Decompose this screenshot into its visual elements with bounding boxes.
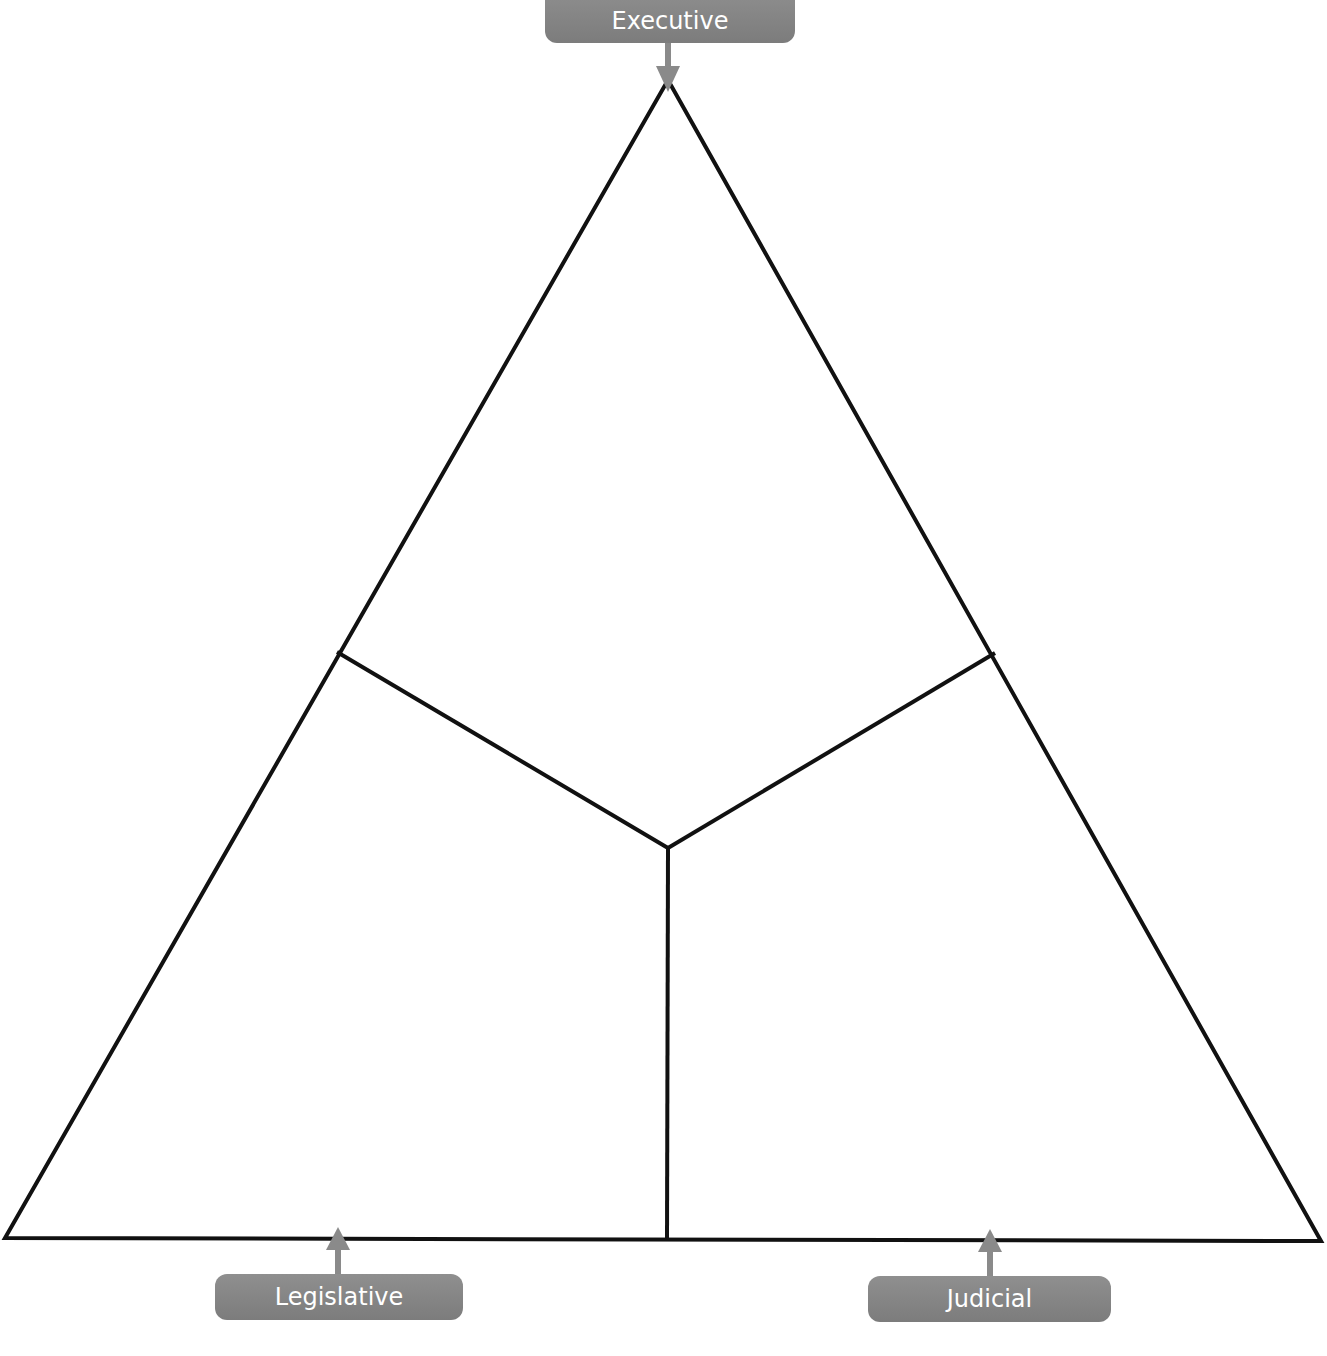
- executive-label: Executive: [545, 0, 795, 43]
- divider-right: [668, 653, 995, 848]
- legislative-label: Legislative: [215, 1274, 463, 1320]
- legislative-label-text: Legislative: [275, 1283, 404, 1311]
- executive-arrow-icon: [656, 42, 680, 92]
- judicial-label: Judicial: [868, 1276, 1111, 1322]
- divider-bottom: [667, 848, 668, 1239]
- legislative-arrow-icon: [326, 1227, 350, 1276]
- judicial-arrow-icon: [978, 1229, 1002, 1278]
- triangle-diagram: [0, 0, 1327, 1356]
- divider-left: [337, 652, 668, 848]
- executive-label-text: Executive: [612, 7, 729, 35]
- judicial-label-text: Judicial: [947, 1285, 1032, 1313]
- outer-triangle: [5, 80, 1321, 1241]
